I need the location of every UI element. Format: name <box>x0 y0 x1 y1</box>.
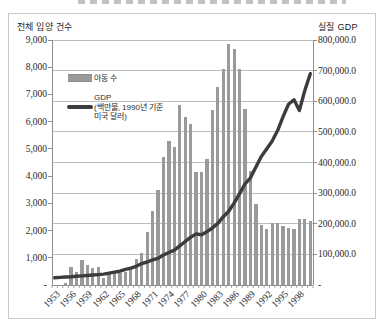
bar <box>298 219 301 286</box>
bar <box>281 226 284 285</box>
bar <box>200 172 203 285</box>
bar <box>167 141 170 285</box>
bar <box>189 124 192 285</box>
bar <box>124 272 127 285</box>
bar <box>238 69 241 285</box>
bar <box>216 87 219 285</box>
bar <box>211 110 214 285</box>
gdp-legend-line1: GDP <box>94 93 163 103</box>
bar <box>113 272 116 285</box>
bars-legend-swatch-icon <box>68 74 92 82</box>
gdp-legend-line2: (백만불, 1990년 기준 <box>94 103 163 113</box>
bar <box>80 260 83 285</box>
bar <box>260 225 263 285</box>
bar <box>194 172 197 285</box>
bar <box>287 228 290 285</box>
bar <box>222 69 225 285</box>
bar <box>227 44 230 285</box>
bar <box>249 171 252 285</box>
bar <box>151 211 154 285</box>
bar <box>146 232 149 285</box>
bar <box>205 159 208 285</box>
bar <box>265 229 268 285</box>
bar <box>129 268 132 285</box>
bar <box>233 49 236 285</box>
line-legend-swatch-icon <box>67 105 93 109</box>
bar <box>135 259 138 285</box>
bar <box>178 105 181 285</box>
bar <box>156 190 159 285</box>
figure-page: 전체 입양 건수 실질 GDP 9,0008,0007,0006,0005,00… <box>0 0 383 328</box>
bars-legend-label: 아동 수 <box>94 72 117 83</box>
bar <box>102 278 105 285</box>
bar <box>271 223 274 285</box>
bar <box>292 229 295 285</box>
bar <box>118 273 121 285</box>
bar <box>162 157 165 285</box>
gdp-legend-line3: 미국 달러) <box>94 112 163 122</box>
bar <box>243 109 246 285</box>
plot-area <box>0 0 383 328</box>
bar <box>254 204 257 285</box>
bar <box>276 223 279 285</box>
bar <box>303 219 306 285</box>
bar <box>75 272 78 285</box>
bar <box>184 117 187 285</box>
bar <box>173 147 176 285</box>
bar <box>309 221 312 285</box>
gdp-legend-label: GDP (백만불, 1990년 기준 미국 달러) <box>94 93 163 122</box>
bar <box>140 253 143 285</box>
